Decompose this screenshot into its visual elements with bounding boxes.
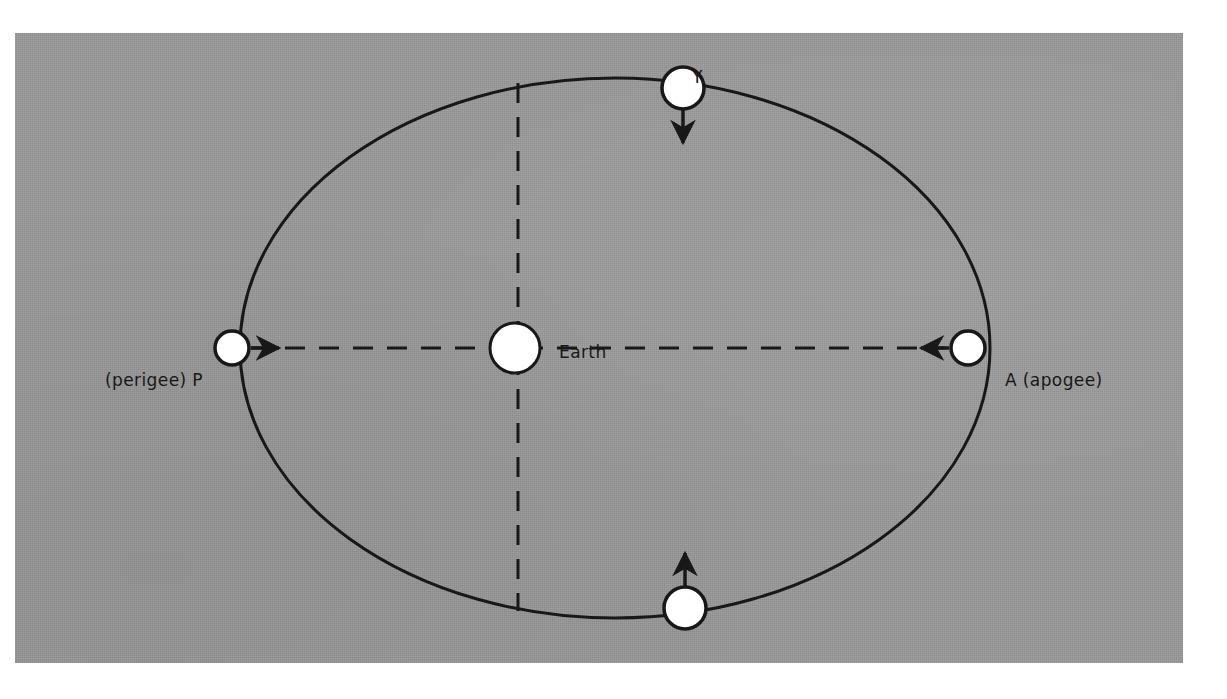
point-y-label: Y	[692, 69, 703, 86]
figure-page: (perigee) P A (apogee) Earth Y X	[0, 0, 1227, 699]
satellite-p-body	[215, 331, 249, 365]
perigee-label: (perigee) P	[105, 372, 203, 389]
earth-label: Earth	[559, 344, 607, 361]
satellite-x-body	[664, 587, 706, 629]
orbit-diagram-panel: (perigee) P A (apogee) Earth Y X	[15, 33, 1183, 663]
earth-body	[490, 323, 540, 373]
satellite-a-body	[951, 331, 985, 365]
apogee-label: A (apogee)	[1005, 372, 1103, 389]
